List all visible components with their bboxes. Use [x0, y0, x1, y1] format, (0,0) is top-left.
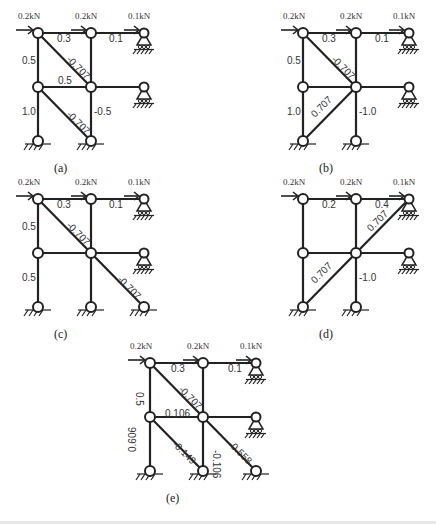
load-label: 0.2kN	[130, 341, 153, 351]
joint-node	[86, 302, 96, 312]
member-force-label: 0.5	[134, 392, 145, 406]
member-force-label: -0.106	[211, 450, 222, 479]
member-force-label: 0.1	[109, 33, 123, 44]
joint-node	[198, 466, 208, 476]
member-force-label: 0.5	[22, 221, 36, 232]
load-arrow-icon	[281, 192, 298, 200]
load-label: 0.2kN	[283, 11, 306, 21]
joint-node	[86, 194, 96, 204]
joint-node	[198, 412, 208, 422]
joint-node	[351, 82, 361, 92]
load-label: 0.1kN	[393, 177, 416, 187]
member-force-label: 0.1	[375, 33, 389, 44]
load-label: 0.1kN	[128, 11, 151, 21]
joint-node	[351, 194, 361, 204]
load-label: 0.1kN	[128, 177, 151, 187]
joint-node	[298, 248, 308, 258]
joint-node	[198, 358, 208, 368]
member-force-label: 1.0	[22, 106, 36, 117]
member-force-label: 1.0	[287, 106, 301, 117]
member-force-label: 0.5	[22, 55, 36, 66]
load-label: 0.2kN	[340, 11, 363, 21]
truss-diagram-e: 0.2kN0.2kN0.1kN0.30.1-0.7070.50.1060.606…	[127, 341, 269, 505]
diagram-caption: (d)	[319, 327, 333, 341]
truss-diagram-b: 0.2kN0.2kN0.1kN0.30.1-0.7070.50.7071.0-1…	[281, 11, 419, 175]
load-label: 0.2kN	[75, 177, 98, 187]
member-force-label: -0.558	[227, 439, 255, 467]
truss-diagram-c: 0.2kN0.2kN0.1kN0.30.1-0.7070.5-0.7070.5(…	[16, 177, 157, 341]
joint-node	[145, 358, 155, 368]
member-force-label: -0.707	[65, 109, 93, 137]
member-force-label: -0.149	[171, 439, 199, 467]
joint-node	[33, 302, 43, 312]
load-arrow-icon	[128, 356, 145, 364]
member-force-label: 0.1	[228, 363, 242, 374]
joint-node	[351, 28, 361, 38]
load-label: 0.2kN	[18, 177, 41, 187]
joint-node	[86, 28, 96, 38]
member-force-label: 0.5	[58, 75, 72, 86]
member-force-label: -0.707	[330, 54, 358, 82]
joint-node	[139, 302, 149, 312]
member-force-label: 0.3	[57, 33, 71, 44]
joint-node	[33, 28, 43, 38]
joint-node	[86, 248, 96, 258]
joint-node	[298, 194, 308, 204]
member-force-label: -1.0	[359, 272, 377, 283]
member-force-label: -0.5	[94, 106, 112, 117]
member-force-label: 0.2	[322, 199, 336, 210]
load-arrow-icon	[281, 26, 298, 34]
truss-diagram-a: 0.2kN0.2kN0.1kN0.30.1-0.7070.50.5-0.7071…	[16, 11, 154, 175]
joint-node	[298, 28, 308, 38]
load-label: 0.2kN	[340, 177, 363, 187]
joint-node	[86, 82, 96, 92]
load-label: 0.2kN	[75, 11, 98, 21]
joint-node	[351, 302, 361, 312]
member-force-label: -0.707	[116, 274, 144, 302]
member-force-label: 0.606	[127, 427, 138, 452]
cropped-caption-line	[0, 518, 436, 527]
joint-node	[251, 466, 261, 476]
load-arrow-icon	[16, 26, 33, 34]
joint-node	[33, 136, 43, 146]
member-force-label: 0.3	[322, 33, 336, 44]
joint-node	[298, 302, 308, 312]
truss-figure: 0.2kN0.2kN0.1kN0.30.1-0.7070.50.5-0.7071…	[0, 0, 436, 527]
load-label: 0.1kN	[393, 11, 416, 21]
load-label: 0.1kN	[240, 341, 263, 351]
member-force-label: 0.5	[287, 55, 301, 66]
member-force-label: 0.5	[22, 272, 36, 283]
member-force-label: -0.707	[65, 220, 93, 248]
joint-node	[33, 82, 43, 92]
member-force-label: 0.3	[171, 363, 185, 374]
load-label: 0.2kN	[18, 11, 41, 21]
load-label: 0.2kN	[187, 341, 210, 351]
diagram-caption: (b)	[319, 161, 333, 175]
member-force-label: 0.707	[309, 94, 335, 120]
joint-node	[351, 248, 361, 258]
joint-node	[145, 466, 155, 476]
member-force-label: -1.0	[359, 106, 377, 117]
joint-node	[298, 82, 308, 92]
joint-node	[33, 194, 43, 204]
member-force-label: 0.1	[109, 199, 123, 210]
diagram-caption: (a)	[54, 161, 67, 175]
load-arrow-icon	[16, 192, 33, 200]
joint-node	[145, 412, 155, 422]
joint-node	[86, 136, 96, 146]
member-force-label: 0.3	[57, 199, 71, 210]
truss-diagram-d: 0.2kN0.2kN0.1kN0.20.40.7070.707-1.0(d)	[281, 177, 419, 341]
diagram-caption: (e)	[166, 491, 179, 505]
joint-node	[33, 248, 43, 258]
load-label: 0.2kN	[283, 177, 306, 187]
joint-node	[351, 136, 361, 146]
member-force-label: 0.707	[309, 260, 335, 286]
joint-node	[298, 136, 308, 146]
diagram-caption: (c)	[54, 327, 67, 341]
member-force-label: 0.106	[165, 408, 190, 419]
